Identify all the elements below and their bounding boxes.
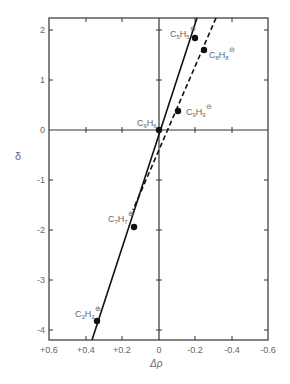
- solid-fit-line: [92, 18, 197, 340]
- svg-text:0: 0: [156, 345, 161, 355]
- point-c6h6: [156, 127, 162, 133]
- point-c9h9: [175, 108, 181, 114]
- y-tick-labels: 2 1 0 -1 -2 -3 -4: [37, 25, 45, 335]
- point-c3h3: [94, 318, 100, 324]
- svg-text:-0.6: -0.6: [260, 345, 276, 355]
- svg-text:-1: -1: [37, 175, 45, 185]
- svg-text:2: 2: [40, 25, 45, 35]
- svg-text:+0.6: +0.6: [40, 345, 58, 355]
- svg-text:+0.4: +0.4: [77, 345, 95, 355]
- svg-text:-3: -3: [37, 275, 45, 285]
- label-c3h3: C3H3⊕: [75, 305, 101, 320]
- point-labels: C5H5⊖ C8H8⊖ C9H9⊖ C6H6 C7H7⊕ C3H3⊕: [75, 25, 235, 320]
- svg-text:0: 0: [40, 125, 45, 135]
- point-c5h5: [192, 35, 198, 41]
- x-tick-labels: +0.6 +0.4 +0.2 0 -0.2 -0.4 -0.6: [40, 345, 276, 355]
- svg-text:-2: -2: [37, 225, 45, 235]
- x-axis-title: Δρ: [149, 358, 163, 369]
- svg-text:1: 1: [40, 75, 45, 85]
- svg-text:-4: -4: [37, 325, 45, 335]
- svg-text:+0.2: +0.2: [113, 345, 131, 355]
- chart: 2 1 0 -1 -2 -3 -4 +0.6 +0.4 +0.2 0 -0.2 …: [0, 0, 290, 384]
- svg-text:-0.2: -0.2: [187, 345, 203, 355]
- label-c8h8: C8H8⊖: [209, 46, 235, 61]
- label-c6h6: C6H6: [137, 118, 157, 129]
- point-c7h7: [131, 224, 137, 230]
- y-axis-title: δ: [15, 150, 21, 162]
- svg-text:-0.4: -0.4: [224, 345, 240, 355]
- point-c8h8: [201, 47, 207, 53]
- label-c9h9: C9H9⊖: [186, 103, 212, 118]
